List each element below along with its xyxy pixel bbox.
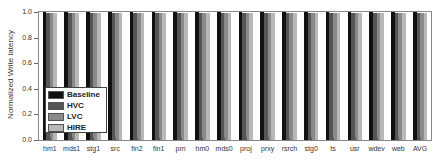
x-tick-label: mds1	[60, 145, 84, 152]
x-tick-mark	[268, 137, 269, 141]
legend-swatch	[48, 124, 64, 132]
bar-hire-stg0	[315, 13, 319, 140]
bar-hire-src	[119, 13, 123, 140]
x-tick-label: stg0	[299, 145, 323, 152]
legend-item-baseline: Baseline	[48, 90, 100, 99]
x-tick-label: prxy	[256, 145, 280, 152]
x-tick-label: src	[103, 145, 127, 152]
x-tick-label: stg1	[81, 145, 105, 152]
x-tick-mark	[377, 137, 378, 141]
bar-hire-prn	[184, 13, 188, 140]
y-tick-label: 0.6	[0, 59, 32, 66]
x-tick-mark	[246, 137, 247, 141]
legend-swatch	[48, 113, 64, 121]
bar-hire-rsrch	[293, 13, 297, 140]
x-tick-mark	[181, 137, 182, 141]
x-tick-mark	[159, 137, 160, 141]
x-tick-mark	[202, 137, 203, 141]
y-tick-label: 0.8	[0, 34, 32, 41]
x-tick-mark	[93, 137, 94, 141]
bar-hire-avg	[424, 13, 428, 140]
x-tick-label: hm1	[38, 145, 62, 152]
bar-chart: Normalized Write latency 0.00.20.40.60.8…	[0, 0, 444, 162]
legend-swatch	[48, 91, 64, 99]
legend: BaselineHVCLVCHIRE	[45, 87, 107, 133]
x-tick-mark	[311, 137, 312, 141]
bar-hire-proj	[249, 13, 253, 140]
x-tick-mark	[137, 137, 138, 141]
legend-item-hire: HIRE	[48, 123, 86, 132]
x-tick-label: usr	[343, 145, 367, 152]
x-tick-label: hm0	[190, 145, 214, 152]
legend-swatch	[48, 102, 64, 110]
bar-hire-prxy	[271, 13, 275, 140]
x-tick-mark	[355, 137, 356, 141]
y-tick-label: 1.0	[0, 8, 32, 15]
x-tick-label: rsrch	[277, 145, 301, 152]
x-tick-label: fin2	[125, 145, 149, 152]
x-tick-mark	[398, 137, 399, 141]
legend-label: HVC	[67, 101, 84, 110]
y-tick-label: 0.4	[0, 85, 32, 92]
x-tick-label: ts	[321, 145, 345, 152]
x-tick-label: mds0	[212, 145, 236, 152]
legend-item-lvc: LVC	[48, 112, 82, 121]
bar-hire-fin2	[141, 13, 145, 140]
x-tick-mark	[333, 137, 334, 141]
x-tick-label: proj	[234, 145, 258, 152]
bar-hire-web	[402, 13, 406, 140]
x-tick-mark	[50, 137, 51, 141]
x-tick-label: wdev	[365, 145, 389, 152]
x-tick-mark	[420, 137, 421, 141]
bar-hire-usr	[358, 13, 362, 140]
x-tick-label: web	[386, 145, 410, 152]
legend-item-hvc: HVC	[48, 101, 84, 110]
bar-hire-mds0	[228, 13, 232, 140]
x-tick-mark	[72, 137, 73, 141]
y-tick-label: 0.0	[0, 136, 32, 143]
x-tick-label: prn	[169, 145, 193, 152]
x-tick-mark	[115, 137, 116, 141]
bar-hire-fin1	[162, 13, 166, 140]
bar-hire-hm0	[206, 13, 210, 140]
x-tick-label: AVG	[408, 145, 432, 152]
x-tick-mark	[224, 137, 225, 141]
legend-label: LVC	[67, 112, 82, 121]
x-tick-label: fin1	[147, 145, 171, 152]
bar-hire-ts	[337, 13, 341, 140]
y-tick-label: 0.2	[0, 110, 32, 117]
legend-label: HIRE	[67, 123, 86, 132]
bar-hire-wdev	[380, 13, 384, 140]
x-tick-mark	[289, 137, 290, 141]
legend-label: Baseline	[67, 90, 100, 99]
